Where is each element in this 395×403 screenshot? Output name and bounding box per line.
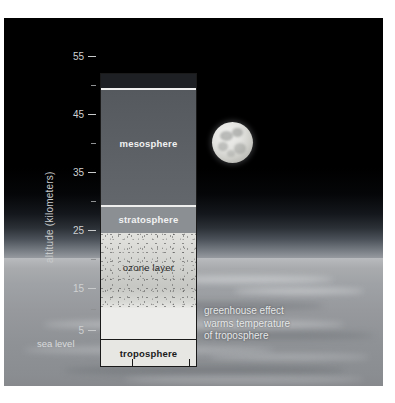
diagram-canvas: greenhouse effect warms temperature of t… xyxy=(0,0,395,403)
annotation-line-1: greenhouse effect xyxy=(204,305,290,318)
bottom-tick-2 xyxy=(189,359,190,366)
layer-troposphere: troposphere xyxy=(101,340,196,366)
axis-tick-label-15: 15 xyxy=(52,283,84,294)
axis-title: altitude (kilometers) xyxy=(44,172,55,263)
axis-tick-label-55: 55 xyxy=(52,51,84,62)
axis-tick-25 xyxy=(88,230,96,231)
layer-label-ozone: ozone layer xyxy=(101,262,196,273)
layer-upper-clear xyxy=(101,308,196,339)
axis-tick-label-25: 25 xyxy=(52,225,84,236)
layer-label-stratosphere: stratosphere xyxy=(101,214,196,225)
axis-tick-30 xyxy=(91,201,96,202)
axis-tick-55 xyxy=(88,56,96,57)
axis-tick-label-35: 35 xyxy=(52,167,84,178)
layer-label-mesosphere: mesosphere xyxy=(101,138,196,149)
axis-tick-15 xyxy=(88,288,96,289)
moon xyxy=(212,122,253,163)
layer-label-troposphere: troposphere xyxy=(101,348,196,359)
axis-tick-5 xyxy=(88,330,96,331)
sea-level-label: sea level xyxy=(37,338,75,349)
annotation-line-3: of troposphere xyxy=(204,330,290,343)
axis-tick-50 xyxy=(91,85,96,86)
photo-backdrop: greenhouse effect warms temperature of t… xyxy=(4,18,383,386)
layer-space-cap xyxy=(101,74,196,88)
axis-tick-label-45: 45 xyxy=(52,109,84,120)
axis-tick-40 xyxy=(91,143,96,144)
axis-tick-label-5: 5 xyxy=(52,325,84,336)
axis-tick-45 xyxy=(88,114,96,115)
atmosphere-column: mesosphere stratosphere ozone layer trop… xyxy=(100,73,197,367)
layer-mesosphere: mesosphere xyxy=(101,90,196,205)
layer-stratosphere: stratosphere xyxy=(101,207,196,233)
layer-ozone: ozone layer xyxy=(101,233,196,308)
annotation-line-2: warms temperature xyxy=(204,318,290,331)
axis-tick-35 xyxy=(88,172,96,173)
greenhouse-annotation: greenhouse effect warms temperature of t… xyxy=(204,305,290,343)
axis-tick-10 xyxy=(91,309,96,310)
axis-tick-20 xyxy=(91,259,96,260)
bottom-tick-1 xyxy=(132,359,133,366)
